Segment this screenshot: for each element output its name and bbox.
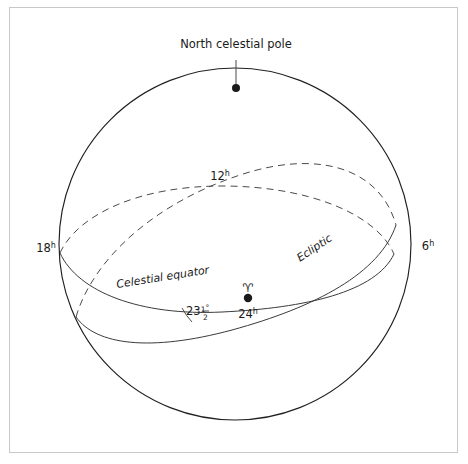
hour-24-unit: h bbox=[253, 307, 258, 316]
aries-symbol-label: ♈ bbox=[243, 281, 254, 295]
hour-18-unit: h bbox=[51, 241, 56, 250]
hour-12-value: 12 bbox=[210, 169, 225, 183]
north-pole-label: North celestial pole bbox=[180, 37, 292, 51]
figure-root: North celestial pole ♈ 24h 12h 18h 6h Ce… bbox=[0, 0, 468, 464]
hour-18-value: 18 bbox=[36, 241, 51, 255]
hour-12-unit: h bbox=[225, 169, 230, 178]
angle-whole: 23 bbox=[186, 304, 201, 318]
hour-24-value: 24 bbox=[238, 307, 253, 321]
north-pole-dot bbox=[232, 84, 240, 92]
angle-denominator-value: 2 bbox=[203, 313, 208, 322]
angle-denominator: 2 bbox=[203, 313, 208, 322]
hour-6-unit: h bbox=[429, 239, 434, 248]
vernal-equinox-dot bbox=[244, 294, 252, 302]
hour-6-value: 6 bbox=[422, 239, 429, 253]
celestial-sphere-diagram: North celestial pole ♈ 24h 12h 18h 6h Ce… bbox=[0, 0, 468, 464]
